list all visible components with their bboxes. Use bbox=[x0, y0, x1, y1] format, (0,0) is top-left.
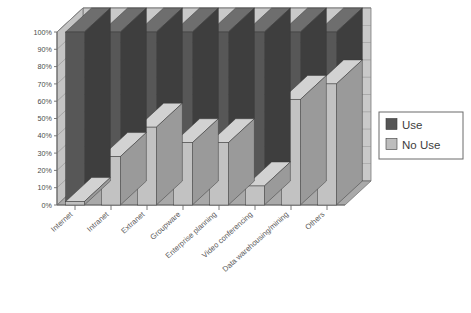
y-axis-tick-label: 10% bbox=[38, 183, 53, 192]
stacked-column-chart-3d: 0%10%20%30%40%50%60%70%80%90%100%Interne… bbox=[0, 0, 471, 313]
y-axis-tick-label: 0% bbox=[42, 201, 53, 210]
y-axis-tick-label: 90% bbox=[38, 45, 53, 54]
bar-segment-use bbox=[66, 8, 111, 202]
y-axis-tick-label: 30% bbox=[38, 149, 53, 158]
y-axis-tick-label: 40% bbox=[38, 131, 53, 140]
bar-segment-front-face bbox=[66, 32, 85, 202]
x-axis-category-label: Groupware bbox=[148, 210, 182, 242]
bar-segment-side-face bbox=[336, 60, 362, 205]
legend-swatch-use bbox=[386, 119, 397, 130]
y-axis-tick-label: 80% bbox=[38, 62, 53, 71]
legend-swatch-no-use bbox=[386, 139, 397, 150]
bar-segment-side-face bbox=[84, 8, 110, 202]
y-axis-tick-label: 70% bbox=[38, 80, 53, 89]
y-axis-tick-label: 60% bbox=[38, 97, 53, 106]
x-axis-category-label: Others bbox=[303, 210, 326, 232]
legend-label: No Use bbox=[402, 139, 440, 151]
x-axis-category-label: Internet bbox=[49, 209, 75, 234]
x-axis-category-label: Intranet bbox=[85, 209, 111, 234]
chart-container: 0%10%20%30%40%50%60%70%80%90%100%Interne… bbox=[0, 0, 471, 313]
y-axis-tick-label: 100% bbox=[34, 28, 53, 37]
y-axis-tick-label: 50% bbox=[38, 114, 53, 123]
y-axis-tick-label: 20% bbox=[38, 166, 53, 175]
x-axis-category-label: Data warehousing/mining bbox=[221, 210, 291, 274]
bar-segment-front-face bbox=[66, 202, 85, 205]
bar-segment-side-face bbox=[264, 8, 290, 186]
x-axis-category-label: Extranet bbox=[119, 209, 147, 235]
legend-label: Use bbox=[402, 119, 422, 131]
bar-segment-front-face bbox=[246, 186, 265, 205]
